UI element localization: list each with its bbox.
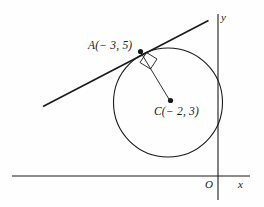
radius-segment — [141, 52, 170, 100]
point-a-label: A(− 3, 5) — [88, 40, 132, 52]
x-axis-label: x — [238, 179, 243, 190]
geometry-figure: A(− 3, 5) C(− 2, 3) y x O — [0, 0, 264, 207]
y-axis-label: y — [221, 12, 226, 23]
figure-canvas — [0, 0, 264, 207]
tangent-line — [43, 21, 209, 107]
point-a-dot — [138, 49, 143, 54]
origin-label: O — [205, 179, 213, 190]
point-c-label: C(− 2, 3) — [154, 106, 199, 118]
point-c-dot — [168, 98, 173, 103]
circle-shape — [114, 48, 223, 157]
